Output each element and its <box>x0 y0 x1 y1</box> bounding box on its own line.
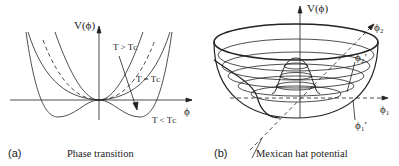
label-t-below: T < Tᴄ <box>152 116 177 125</box>
panel-a-graphics <box>10 26 192 120</box>
label-t-above: T > Tᴄ <box>113 43 138 52</box>
cooling-arrow <box>119 56 136 107</box>
label-t-critical: T = Tᴄ <box>136 75 161 84</box>
v-axis-arrow-icon <box>298 6 302 13</box>
vev-phi1-pointer <box>353 100 355 120</box>
panel-a-x-label: ϕ <box>184 106 190 117</box>
phi1-arrow-icon <box>382 96 388 100</box>
phi2-label: ϕ₂ <box>374 22 384 33</box>
y-axis-arrow-icon <box>97 26 101 33</box>
vev-phi1-label: ϕ₁' <box>355 120 367 131</box>
panel-b-y-label: V(ϕ) <box>307 3 328 14</box>
diagram-canvas <box>0 0 399 166</box>
phi1-label: ϕ₁ <box>380 104 390 115</box>
x-axis-arrow-icon <box>186 98 192 102</box>
panel-b-tag: (b) <box>214 147 227 159</box>
panel-a-tag: (a) <box>8 147 21 159</box>
panel-a-caption: Phase transition <box>67 148 134 159</box>
panel-a-y-label: V(ϕ) <box>74 20 95 31</box>
panel-b-graphics <box>214 6 388 158</box>
curve-t-mid-left <box>28 32 99 100</box>
cutaway-edge <box>214 60 280 118</box>
arrow-head-icon <box>133 102 138 110</box>
panel-b-caption: Mexican hat potential <box>256 148 348 159</box>
vev-phi2-label: ϕ₂' <box>355 52 367 63</box>
bowl-rim <box>214 24 378 60</box>
contour <box>251 86 341 102</box>
